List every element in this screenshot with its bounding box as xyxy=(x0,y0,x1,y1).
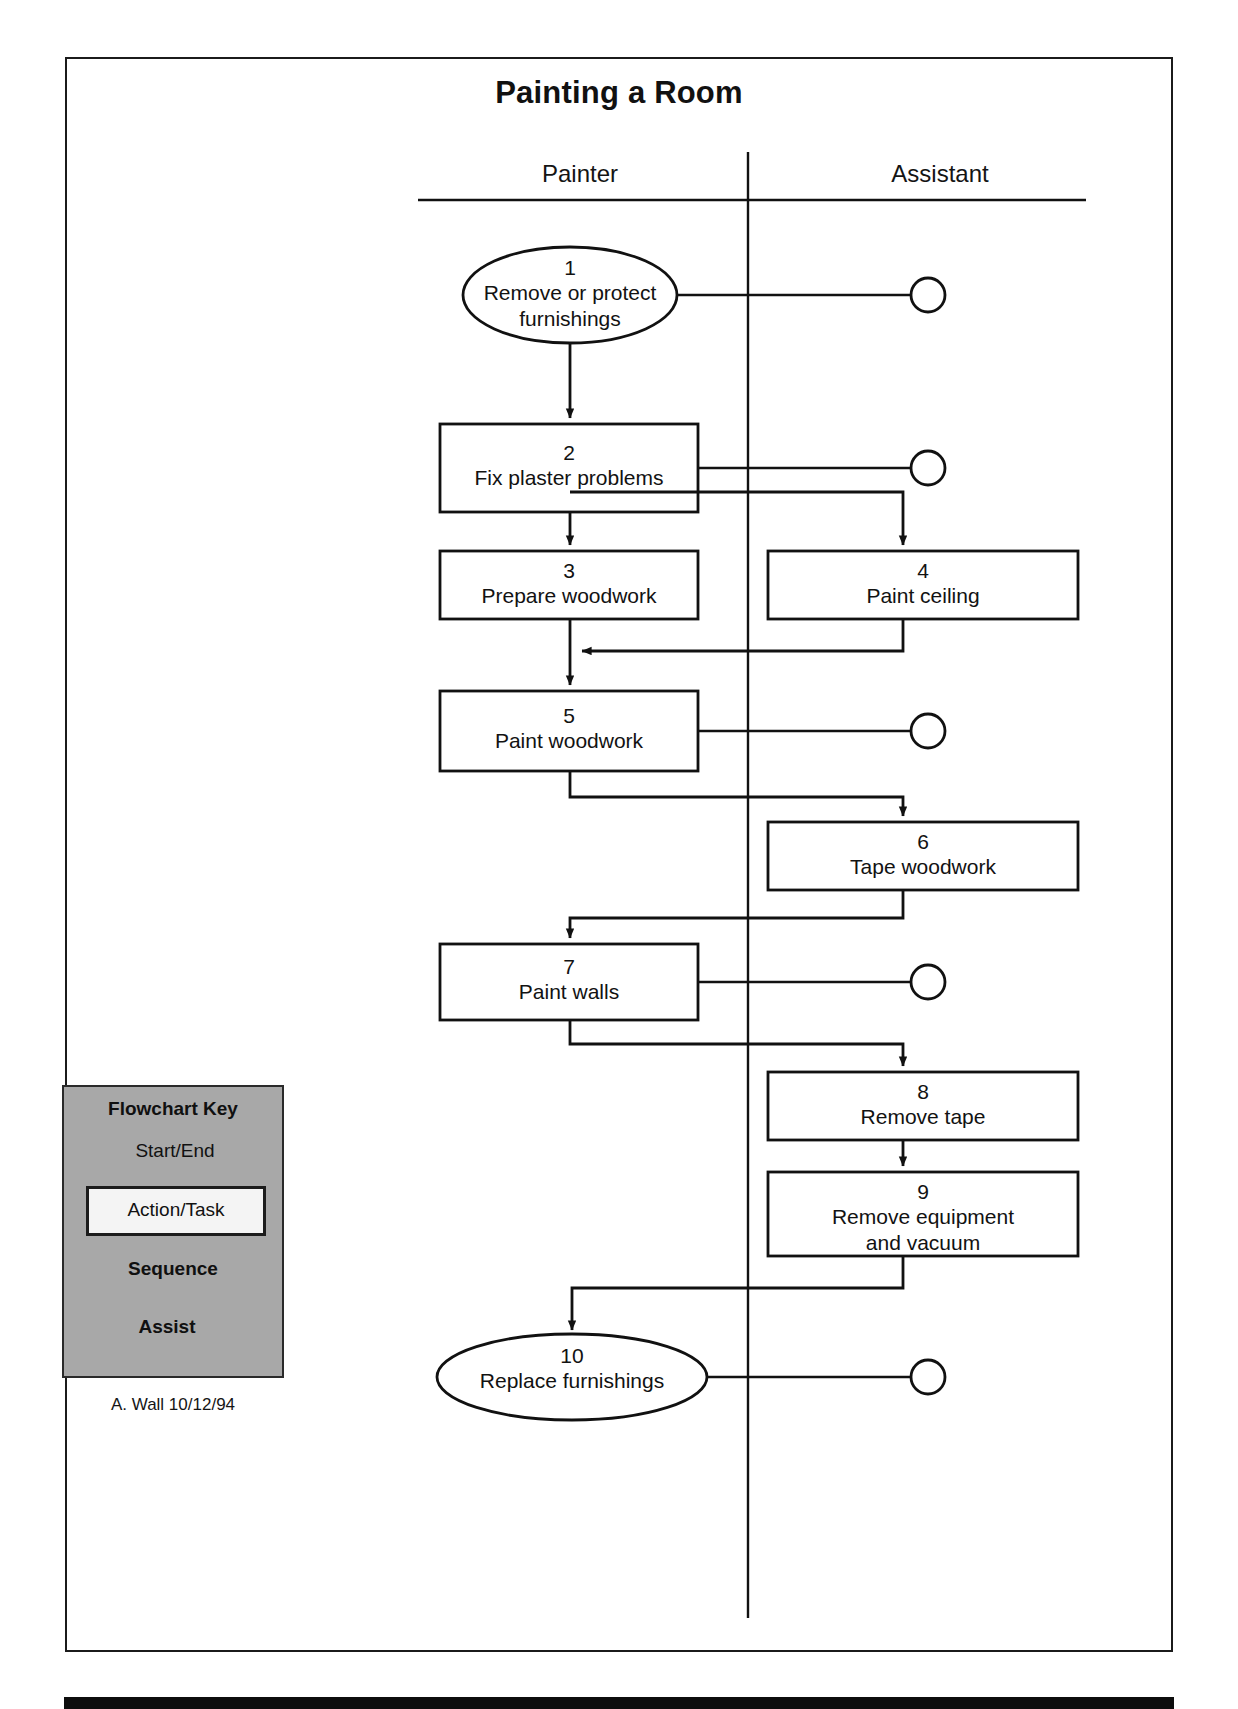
assist-circle-1 xyxy=(911,278,945,312)
node-4-shape xyxy=(768,551,1078,619)
node-7-shape xyxy=(440,944,698,1020)
edge-4-to-5 xyxy=(582,619,903,651)
legend-action-task-label: Action/Task xyxy=(86,1199,266,1221)
node-9-shape xyxy=(768,1172,1078,1256)
legend-start-end-label: Start/End xyxy=(105,1140,245,1162)
attribution-text: A. Wall 10/12/94 xyxy=(62,1395,284,1415)
node-1-shape xyxy=(463,247,677,343)
assist-circle-5 xyxy=(911,714,945,748)
assist-circle-7 xyxy=(911,965,945,999)
flowchart-key-title: Flowchart Key xyxy=(62,1098,284,1120)
node-5-shape xyxy=(440,691,698,771)
node-8-shape xyxy=(768,1072,1078,1140)
assist-circle-10 xyxy=(911,1360,945,1394)
flowchart-page: Painting a Room xyxy=(0,0,1238,1709)
node-3-shape xyxy=(440,551,698,619)
edge-6-to-7 xyxy=(570,890,903,938)
lane-header-assistant: Assistant xyxy=(790,160,1090,188)
node-10-shape xyxy=(437,1334,707,1420)
bottom-black-bar xyxy=(64,1697,1174,1709)
flowchart-canvas xyxy=(0,0,1238,1709)
node-2-shape xyxy=(440,424,698,512)
legend-sequence-label: Sequence xyxy=(66,1258,280,1280)
edge-9-to-10 xyxy=(572,1256,903,1330)
edge-5-to-6 xyxy=(570,771,903,816)
node-6-shape xyxy=(768,822,1078,890)
legend-assist-label: Assist xyxy=(60,1316,274,1338)
assist-circle-2 xyxy=(911,451,945,485)
edge-7-to-8 xyxy=(570,1020,903,1066)
lane-header-painter: Painter xyxy=(430,160,730,188)
